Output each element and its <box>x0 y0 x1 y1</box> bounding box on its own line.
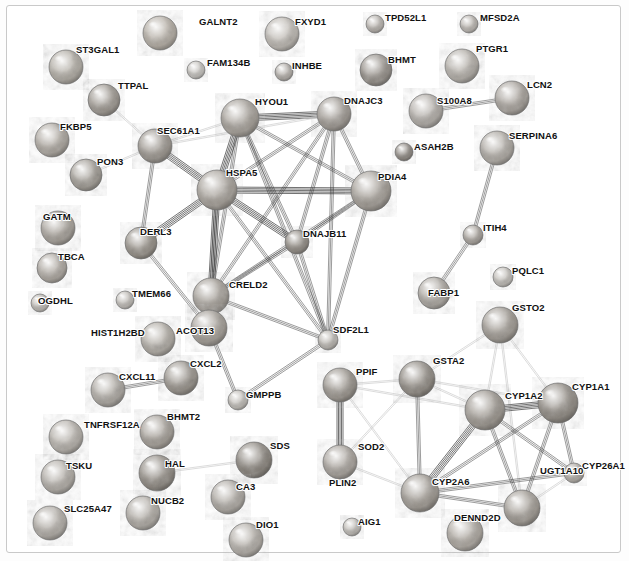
protein-node[interactable] <box>70 159 102 191</box>
protein-node[interactable] <box>138 129 172 163</box>
protein-node[interactable] <box>91 373 125 407</box>
protein-node[interactable] <box>49 420 83 454</box>
protein-node[interactable] <box>88 84 120 116</box>
protein-node[interactable] <box>41 460 75 494</box>
edge[interactable] <box>432 385 468 402</box>
protein-node[interactable] <box>275 63 293 81</box>
protein-node[interactable] <box>495 81 529 115</box>
protein-node[interactable] <box>482 307 518 343</box>
protein-node[interactable] <box>538 383 578 423</box>
edge[interactable] <box>142 162 154 228</box>
edge[interactable] <box>225 247 288 288</box>
edge[interactable] <box>474 163 494 226</box>
edge[interactable] <box>166 153 203 182</box>
edge[interactable] <box>100 152 141 170</box>
protein-node[interactable] <box>265 17 299 51</box>
protein-node[interactable] <box>409 94 443 128</box>
protein-node[interactable] <box>465 390 505 430</box>
protein-node[interactable] <box>229 523 263 557</box>
edge[interactable] <box>500 420 567 469</box>
edge[interactable] <box>226 301 319 338</box>
protein-node[interactable] <box>228 390 248 410</box>
protein-node[interactable] <box>191 310 227 346</box>
protein-node[interactable] <box>41 211 75 245</box>
protein-node[interactable] <box>116 291 134 309</box>
protein-node[interactable] <box>139 455 175 491</box>
protein-node[interactable] <box>236 442 272 478</box>
edge[interactable] <box>526 420 553 492</box>
protein-node[interactable] <box>343 518 361 536</box>
edge[interactable] <box>349 398 410 479</box>
edge[interactable] <box>227 204 323 333</box>
edge[interactable] <box>124 379 166 389</box>
protein-node[interactable] <box>399 361 435 397</box>
protein-node[interactable] <box>317 97 351 131</box>
edge[interactable] <box>355 467 404 487</box>
edge[interactable] <box>327 130 335 330</box>
protein-node[interactable] <box>141 322 175 356</box>
protein-node[interactable] <box>564 463 584 483</box>
protein-node[interactable] <box>318 330 338 350</box>
protein-node[interactable] <box>351 171 391 211</box>
protein-node[interactable] <box>401 474 439 512</box>
edge[interactable] <box>438 494 506 507</box>
protein-node[interactable] <box>143 16 177 50</box>
edge[interactable] <box>441 242 469 281</box>
edge[interactable] <box>356 380 400 385</box>
protein-node[interactable] <box>140 415 174 449</box>
protein-node[interactable] <box>285 230 309 254</box>
protein-node[interactable] <box>463 225 483 245</box>
edge[interactable] <box>350 391 405 451</box>
protein-node[interactable] <box>360 54 392 86</box>
protein-node[interactable] <box>447 515 483 551</box>
edge[interactable] <box>337 401 343 446</box>
protein-node[interactable] <box>37 253 67 283</box>
edge[interactable] <box>561 421 574 464</box>
protein-node[interactable] <box>164 361 198 395</box>
protein-node[interactable] <box>193 278 229 314</box>
edge[interactable] <box>416 396 421 475</box>
node-layer[interactable] <box>31 15 584 557</box>
edge[interactable] <box>340 128 364 175</box>
protein-node[interactable] <box>187 61 205 79</box>
protein-node[interactable] <box>480 131 514 165</box>
edge[interactable] <box>438 473 565 492</box>
protein-node[interactable] <box>418 277 450 309</box>
edge[interactable] <box>442 99 497 110</box>
protein-node[interactable] <box>504 490 540 526</box>
protein-node[interactable] <box>323 445 357 479</box>
edge[interactable] <box>214 343 236 391</box>
protein-node[interactable] <box>493 267 513 287</box>
protein-node[interactable] <box>126 496 160 530</box>
protein-node[interactable] <box>33 506 67 540</box>
edge[interactable] <box>329 209 367 331</box>
edge[interactable] <box>488 342 498 392</box>
edge[interactable] <box>431 334 486 371</box>
edge[interactable] <box>245 344 321 396</box>
protein-node[interactable] <box>49 50 83 84</box>
edge[interactable] <box>115 110 144 136</box>
protein-node[interactable] <box>197 170 237 210</box>
interaction-graph[interactable] <box>0 0 629 561</box>
edge[interactable] <box>510 338 548 388</box>
edge[interactable] <box>536 478 567 499</box>
protein-node[interactable] <box>323 368 357 402</box>
protein-node[interactable] <box>31 294 49 312</box>
protein-node[interactable] <box>395 143 413 161</box>
edge[interactable] <box>170 123 223 142</box>
protein-node[interactable] <box>445 49 479 83</box>
protein-node[interactable] <box>460 15 478 33</box>
edge[interactable] <box>152 198 203 236</box>
edge[interactable] <box>174 462 237 472</box>
edge[interactable] <box>149 254 199 316</box>
network-canvas: GALNT2FXYD1TPD52L1MFSD2AST3GAL1FAM134BIN… <box>0 0 629 561</box>
protein-node[interactable] <box>125 227 157 259</box>
protein-node[interactable] <box>366 15 384 33</box>
protein-node[interactable] <box>221 99 259 137</box>
edge[interactable] <box>236 187 352 194</box>
protein-node[interactable] <box>211 480 245 514</box>
protein-node[interactable] <box>35 123 69 157</box>
